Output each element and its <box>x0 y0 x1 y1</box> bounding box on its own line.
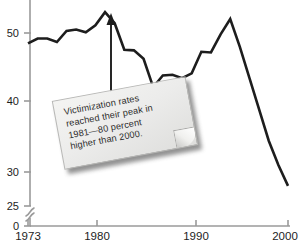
y-tick-label-50: 50 <box>7 27 19 39</box>
x-tick-label-1973: 1973 <box>15 230 41 242</box>
y-tick-label-40: 40 <box>7 95 19 107</box>
y-tick-label-25: 25 <box>7 200 19 212</box>
x-tick-label-1980: 1980 <box>84 230 110 242</box>
note-curled-corner-icon <box>173 127 197 149</box>
y-tick-label-30: 30 <box>7 166 19 178</box>
chart-container: 50 40 30 25 0 1973 1980 1990 2000 <box>0 0 302 248</box>
x-axis: 1973 1980 1990 2000 <box>15 220 298 242</box>
x-tick-label-2000: 2000 <box>272 230 298 242</box>
x-tick-label-1990: 1990 <box>183 230 209 242</box>
y-axis: 50 40 30 25 0 <box>7 0 34 232</box>
note-text-block: Victimization rates reached their peak i… <box>63 85 192 154</box>
